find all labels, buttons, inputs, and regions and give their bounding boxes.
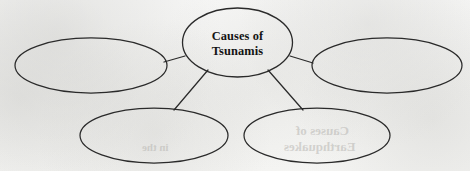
branch-node-ellipse-right[interactable] <box>312 38 462 93</box>
center-node-ellipse[interactable] <box>183 8 293 77</box>
center-node-label-line1: Causes of <box>212 29 264 43</box>
branch-node-left[interactable] <box>15 38 167 93</box>
branch-node-right[interactable] <box>312 38 462 93</box>
branch-node-ellipse-bottom-right[interactable] <box>244 108 390 163</box>
worksheet-page: Causes ofEarthquakesin the Causes of Tsu… <box>0 0 470 171</box>
branch-node-ellipse-bottom-left[interactable] <box>80 108 228 163</box>
branch-node-bottom-right[interactable] <box>244 108 390 163</box>
connector-line-center-to-bottom-right <box>268 70 303 110</box>
center-node-label-line2: Tsunamis <box>212 44 263 58</box>
connector-line-center-to-left <box>164 56 185 62</box>
center-node[interactable]: Causes of Tsunamis <box>183 8 293 77</box>
branch-node-ellipse-left[interactable] <box>15 38 167 93</box>
branch-node-bottom-left[interactable] <box>80 108 228 163</box>
concept-map-diagram: Causes of Tsunamis <box>0 0 470 171</box>
connector-lines-group <box>164 56 313 110</box>
connector-line-center-to-bottom-left <box>174 70 208 110</box>
connector-line-center-to-right <box>290 56 313 63</box>
